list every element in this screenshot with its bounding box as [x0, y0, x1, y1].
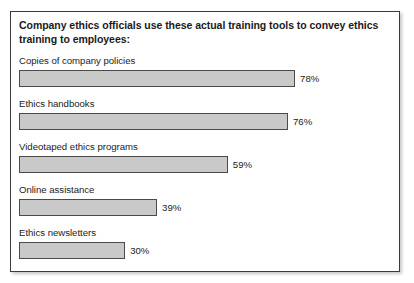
- chart-title: Company ethics officials use these actua…: [19, 19, 387, 46]
- bar-category-label: Online assistance: [19, 184, 391, 196]
- bar-value-label: 78%: [300, 72, 319, 85]
- bar-fill: [19, 113, 288, 130]
- bar-value-label: 39%: [162, 201, 181, 214]
- bar-value-label: 30%: [130, 244, 149, 257]
- chart-body: Company ethics officials use these actua…: [11, 12, 399, 271]
- bar-row: Ethics newsletters 30%: [19, 227, 391, 270]
- bar-value-label: 59%: [233, 158, 252, 171]
- bar-category-label: Copies of company policies: [19, 55, 391, 67]
- bar-category-label: Ethics newsletters: [19, 227, 391, 239]
- bar-fill: [19, 70, 295, 87]
- bar-fill: [19, 156, 228, 173]
- bar-fill: [19, 199, 157, 216]
- bar-fill: [19, 242, 125, 259]
- chart-frame: Company ethics officials use these actua…: [10, 11, 400, 272]
- bar-track: 39%: [19, 199, 391, 216]
- bar-category-label: Ethics handbooks: [19, 98, 391, 110]
- bar-row: Videotaped ethics programs 59%: [19, 141, 391, 184]
- bar-chart-plot-area: Copies of company policies 78% Ethics ha…: [19, 55, 391, 270]
- bar-row: Ethics handbooks 76%: [19, 98, 391, 141]
- bar-row: Copies of company policies 78%: [19, 55, 391, 98]
- bar-track: 59%: [19, 156, 391, 173]
- bar-track: 76%: [19, 113, 391, 130]
- bar-category-label: Videotaped ethics programs: [19, 141, 391, 153]
- bar-value-label: 76%: [293, 115, 312, 128]
- bar-row: Online assistance 39%: [19, 184, 391, 227]
- bar-track: 30%: [19, 242, 391, 259]
- bar-track: 78%: [19, 70, 391, 87]
